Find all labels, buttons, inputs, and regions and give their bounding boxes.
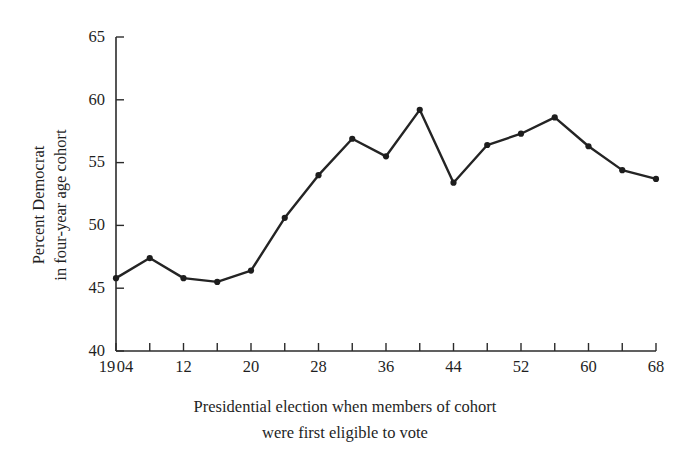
series-line-percent-democrat	[116, 110, 656, 282]
data-point	[619, 167, 625, 173]
data-point	[349, 136, 355, 142]
data-point	[214, 279, 220, 285]
line-chart-canvas: 404550556065 19041220283644526068 Percen…	[0, 0, 685, 456]
x-axis-tick-labels: 19041220283644526068	[99, 357, 665, 376]
data-point	[147, 255, 153, 261]
data-point	[552, 114, 558, 120]
chart-figure: 404550556065 19041220283644526068 Percen…	[0, 0, 685, 456]
data-point	[315, 172, 321, 178]
y-tick-label-65: 65	[89, 27, 106, 46]
x-tick-label-1920: 20	[243, 357, 260, 376]
data-point	[518, 131, 524, 137]
x-axis-title-group: Presidential election when members of co…	[194, 397, 497, 442]
x-tick-label-1904: 1904	[99, 357, 134, 376]
data-point	[653, 176, 659, 182]
y-tick-label-50: 50	[89, 215, 106, 234]
x-tick-label-1968: 68	[648, 357, 665, 376]
y-axis-title-group: Percent Democrat in four-year age cohort	[29, 129, 70, 281]
y-axis-ticks	[116, 37, 124, 351]
y-tick-label-60: 60	[89, 90, 106, 109]
x-tick-label-1936: 36	[378, 357, 395, 376]
data-point	[180, 275, 186, 281]
x-tick-label-1928: 28	[310, 357, 327, 376]
data-point	[383, 153, 389, 159]
x-axis-title-line2: were first eligible to vote	[262, 423, 428, 442]
y-axis-title-line1: Percent Democrat	[29, 145, 48, 264]
data-point	[113, 275, 119, 281]
data-point	[282, 215, 288, 221]
y-tick-label-55: 55	[89, 152, 106, 171]
x-axis-ticks	[116, 343, 656, 351]
y-tick-label-45: 45	[89, 278, 106, 297]
x-tick-label-1960: 60	[580, 357, 597, 376]
x-tick-label-1912: 12	[175, 357, 192, 376]
series-markers	[113, 107, 659, 285]
data-point	[248, 268, 254, 274]
data-series-group	[113, 107, 659, 285]
data-point	[450, 180, 456, 186]
y-axis-title-line2: in four-year age cohort	[51, 129, 70, 281]
x-tick-label-1944: 44	[445, 357, 462, 376]
y-axis-group: 404550556065	[89, 27, 125, 360]
x-axis-title-line1: Presidential election when members of co…	[194, 397, 497, 416]
data-point	[417, 107, 423, 113]
x-tick-label-1952: 52	[513, 357, 530, 376]
data-point	[484, 142, 490, 148]
x-axis-group: 19041220283644526068	[99, 343, 665, 376]
y-axis-tick-labels: 404550556065	[89, 27, 106, 360]
data-point	[585, 143, 591, 149]
